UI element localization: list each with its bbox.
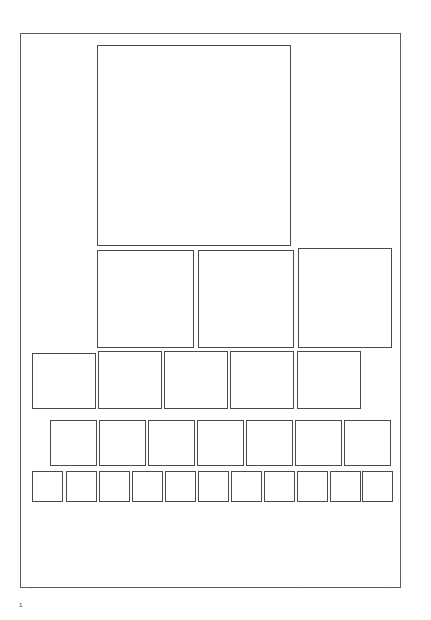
layout-box[interactable]	[148, 420, 195, 466]
layout-box[interactable]	[66, 471, 97, 502]
layout-box[interactable]	[297, 351, 361, 409]
layout-box[interactable]	[132, 471, 163, 502]
layout-box[interactable]	[164, 351, 228, 409]
layout-box[interactable]	[246, 420, 293, 466]
layout-box[interactable]	[99, 471, 130, 502]
layout-box[interactable]	[97, 45, 291, 246]
layout-box[interactable]	[330, 471, 361, 502]
layout-box[interactable]	[99, 420, 146, 466]
layout-box[interactable]	[32, 353, 96, 409]
layout-box[interactable]	[97, 250, 194, 348]
layout-box[interactable]	[198, 471, 229, 502]
layout-box[interactable]	[298, 248, 392, 348]
page-number-label: 1	[19, 601, 22, 609]
layout-box[interactable]	[362, 471, 393, 502]
layout-box[interactable]	[231, 471, 262, 502]
layout-box[interactable]	[295, 420, 342, 466]
layout-box[interactable]	[344, 420, 391, 466]
layout-box[interactable]	[297, 471, 328, 502]
layout-box[interactable]	[98, 351, 162, 409]
layout-box[interactable]	[32, 471, 63, 502]
layout-box[interactable]	[50, 420, 97, 466]
layout-box[interactable]	[264, 471, 295, 502]
document-canvas: 1	[0, 0, 431, 620]
layout-box[interactable]	[230, 351, 294, 409]
layout-box[interactable]	[197, 420, 244, 466]
layout-box[interactable]	[198, 250, 294, 348]
layout-box[interactable]	[165, 471, 196, 502]
